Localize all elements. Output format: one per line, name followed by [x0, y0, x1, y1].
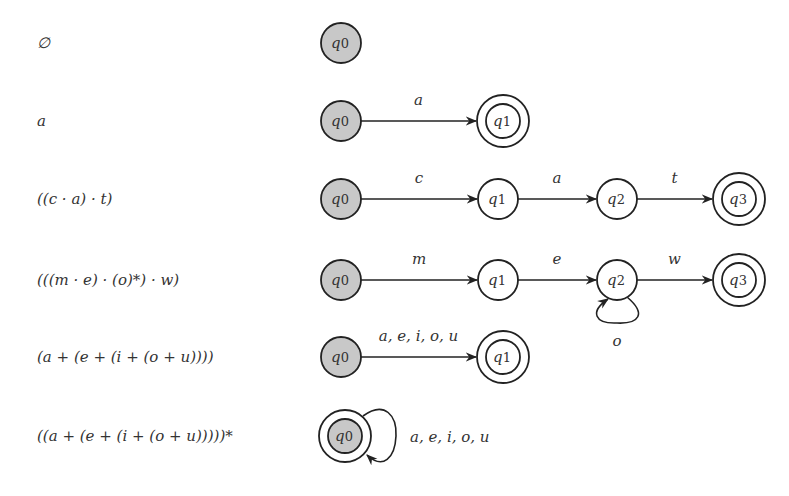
state-label: q0: [331, 348, 349, 366]
state-label: q0: [331, 112, 349, 130]
state-q3: q3: [713, 254, 765, 306]
state-q1: q1: [477, 95, 529, 147]
state-q0: q0: [321, 260, 361, 300]
state-q0: q0: [319, 410, 371, 462]
transition-label: w: [668, 250, 681, 268]
transition-label: o: [612, 332, 621, 350]
transition-label: e: [553, 250, 562, 268]
state-q0: q0: [321, 337, 361, 377]
transition-label: a: [553, 169, 562, 187]
state-q1: q1: [478, 179, 518, 219]
state-label: q3: [729, 190, 747, 208]
transition-label: c: [415, 169, 424, 187]
transition-label: a, e, i, o, u: [379, 327, 458, 345]
state-label: q1: [493, 348, 511, 366]
self-loop-arrow: [597, 297, 639, 323]
transition-label: a: [414, 91, 423, 109]
automaton-row-4: a, e, i, o, uq0q1: [321, 327, 529, 383]
state-q0: q0: [321, 179, 361, 219]
transition-label: m: [412, 250, 426, 268]
state-label: q1: [488, 190, 506, 208]
state-label: q1: [488, 271, 506, 289]
automaton-row-1: aq0q1: [321, 91, 529, 147]
state-label: q0: [331, 190, 349, 208]
state-q2: q2: [597, 179, 637, 219]
state-label: q1: [493, 112, 511, 130]
automata-diagrams: q0aq0q1catq0q1q2q3meowq0q1q2q3a, e, i, o…: [0, 0, 789, 496]
automaton-row-0: q0: [321, 23, 361, 63]
state-label: q0: [331, 34, 349, 52]
state-q1: q1: [478, 260, 518, 300]
state-q0: q0: [321, 101, 361, 141]
transition-label: a, e, i, o, u: [410, 428, 489, 446]
automata-figure: ∅ a ((c · a) · t) (((m · e) · (o)*) · w)…: [0, 0, 789, 496]
state-q2: q2: [597, 260, 637, 300]
transition-label: t: [671, 169, 678, 187]
state-label: q3: [729, 271, 747, 289]
state-q0: q0: [321, 23, 361, 63]
automaton-row-2: catq0q1q2q3: [321, 169, 765, 225]
state-q1: q1: [477, 331, 529, 383]
state-label: q0: [335, 427, 353, 445]
automaton-row-5: a, e, i, o, uq0: [319, 409, 489, 462]
state-label: q0: [331, 271, 349, 289]
state-label: q2: [607, 271, 625, 289]
state-q3: q3: [713, 173, 765, 225]
state-label: q2: [607, 190, 625, 208]
